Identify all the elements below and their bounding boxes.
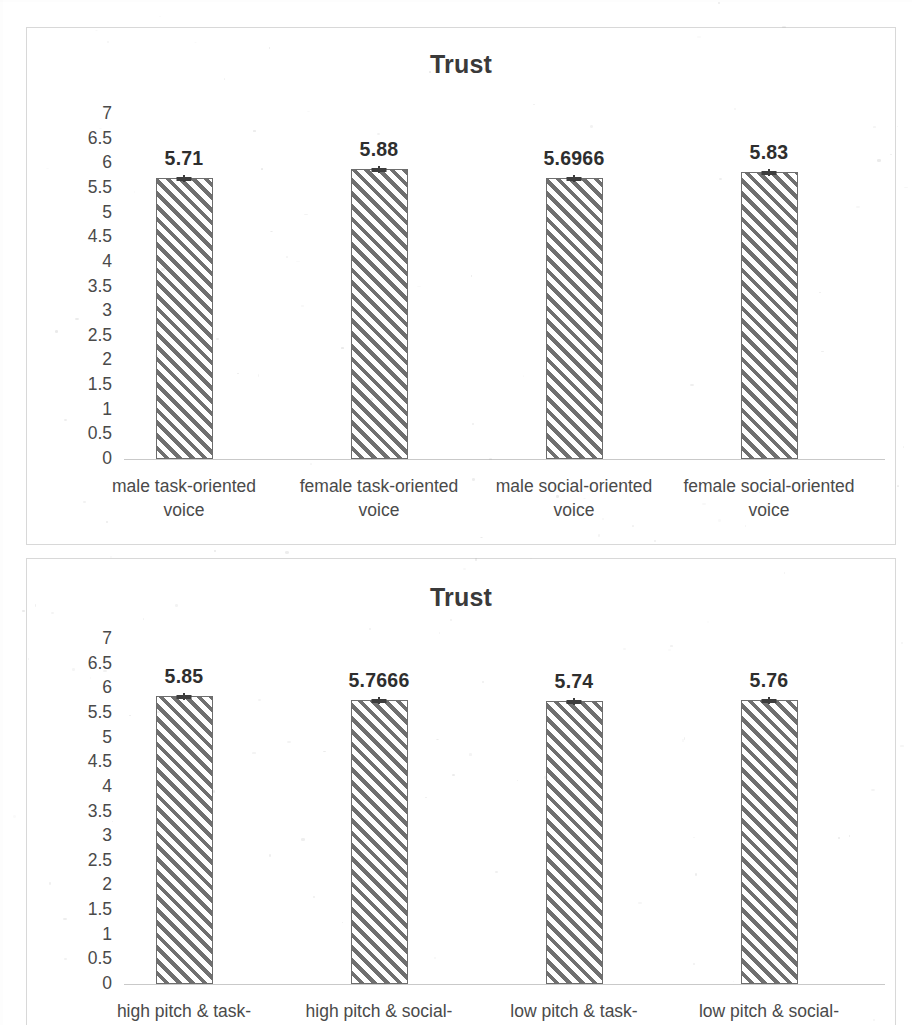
scan-speck	[214, 550, 216, 552]
scan-speck	[452, 774, 455, 775]
bar-value-label: 5.83	[750, 141, 789, 164]
bar-value-label: 5.7666	[349, 669, 410, 692]
scan-speck	[469, 753, 472, 755]
scan-speck	[450, 619, 452, 622]
error-bar-cap	[177, 177, 192, 181]
bar	[351, 169, 408, 459]
x-axis-baseline	[124, 984, 885, 985]
bar-value-label: 5.88	[360, 138, 399, 161]
scan-speck	[75, 318, 78, 320]
y-axis-tick-label: 1	[42, 401, 112, 419]
scan-speck	[377, 133, 380, 135]
scan-speck	[110, 907, 112, 910]
scan-speck	[13, 815, 16, 818]
error-bar-cap	[762, 699, 777, 703]
scan-speck	[285, 551, 289, 554]
y-axis-tick-label: 4.5	[42, 753, 112, 771]
scan-speck	[434, 957, 436, 959]
y-axis-tick-label: 6.5	[42, 130, 112, 148]
scan-speck	[773, 747, 775, 749]
chart-panel-top: Trust 76.565.554.543.532.521.510.505.71m…	[26, 27, 896, 545]
scan-speck	[897, 485, 899, 486]
error-bar-cap	[372, 168, 387, 172]
scan-speck	[155, 355, 159, 357]
scan-speck	[475, 558, 477, 561]
scan-speck	[718, 519, 720, 522]
scan-speck	[794, 394, 798, 397]
scan-speck	[782, 26, 785, 28]
scan-speck	[301, 838, 305, 841]
scan-speck	[472, 423, 474, 425]
scan-speck	[355, 786, 357, 788]
y-axis-tick-label: 0.5	[42, 426, 112, 444]
y-axis-tick-label: 3.5	[42, 278, 112, 296]
scan-speck	[564, 223, 567, 225]
y-axis-tick-label: 3.5	[42, 803, 112, 821]
bar-value-label: 5.76	[750, 669, 789, 692]
scan-speck	[301, 305, 304, 307]
error-bar-cap	[567, 700, 582, 704]
scan-speck	[22, 610, 25, 612]
plot-area-top: 76.565.554.543.532.521.510.505.71male ta…	[27, 28, 897, 546]
y-axis-tick-label: 5.5	[42, 179, 112, 197]
category-label-line1: female task-oriented	[300, 476, 459, 496]
scan-speck	[670, 645, 674, 646]
x-axis-baseline	[124, 459, 885, 460]
error-bar-cap	[177, 695, 192, 699]
scan-speck	[253, 130, 256, 131]
scan-speck	[361, 447, 364, 449]
scan-speck	[623, 648, 626, 650]
scan-speck	[838, 837, 840, 839]
error-bar-cap	[567, 177, 582, 181]
y-axis-tick-label: 4	[42, 253, 112, 271]
bar	[546, 178, 603, 459]
scan-speck	[602, 518, 603, 520]
chart-panel-bottom: Trust 76.565.554.543.532.521.510.505.85h…	[26, 558, 896, 1025]
plot-area-bottom: 76.565.554.543.532.521.510.505.85high pi…	[27, 559, 897, 1025]
bar-value-label: 5.71	[165, 147, 204, 170]
y-axis-tick-label: 7	[42, 105, 112, 123]
scan-speck	[112, 821, 113, 822]
category-label-line1: male task-oriented	[112, 476, 256, 496]
error-bar-cap	[762, 171, 777, 175]
bar-value-label: 5.85	[165, 665, 204, 688]
scan-speck	[213, 790, 216, 793]
scan-speck	[425, 797, 427, 798]
y-axis-tick-label: 0	[42, 450, 112, 468]
scan-speck	[216, 338, 219, 340]
scan-speck	[46, 168, 50, 169]
scan-speck	[690, 384, 693, 386]
y-axis-tick-label: 6	[42, 155, 112, 173]
y-axis-tick-label: 4.5	[42, 228, 112, 246]
scan-speck	[51, 612, 54, 614]
y-axis-tick-label: 6	[42, 680, 112, 698]
scan-speck	[707, 621, 710, 623]
scan-speck	[252, 752, 256, 753]
scan-speck	[159, 16, 161, 17]
y-axis-tick-label: 0.5	[42, 951, 112, 969]
scan-speck	[900, 745, 904, 746]
x-axis-category-label: female social-orientedvoice	[654, 475, 884, 522]
scan-speck	[904, 187, 907, 189]
bar	[156, 696, 213, 984]
y-axis-tick-label: 1	[42, 926, 112, 944]
y-axis-tick-label: 2	[42, 877, 112, 895]
scan-speck	[104, 131, 106, 134]
scan-speck	[63, 918, 67, 920]
y-axis-tick-label: 2.5	[42, 852, 112, 870]
scan-speck	[410, 489, 411, 491]
scan-speck	[773, 753, 775, 756]
category-label-line1: high pitch & social-	[306, 1001, 453, 1021]
y-axis-tick-label: 2.5	[42, 327, 112, 345]
scan-speck	[72, 668, 75, 670]
y-axis-tick-label: 5	[42, 204, 112, 222]
y-axis-tick-label: 2	[42, 352, 112, 370]
scan-speck	[901, 642, 903, 644]
scan-speck	[596, 230, 600, 233]
category-label-line1: high pitch & task-	[117, 1001, 251, 1021]
scan-speck	[286, 256, 288, 258]
bar-value-label: 5.6966	[544, 147, 605, 170]
scan-speck	[49, 882, 51, 885]
scan-speck	[702, 503, 705, 506]
y-axis-tick-label: 1.5	[42, 901, 112, 919]
